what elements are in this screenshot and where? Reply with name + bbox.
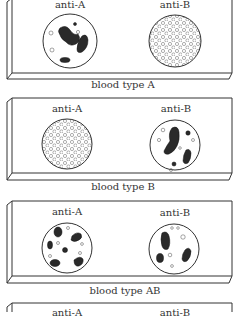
slide-blood-type-ab	[7, 201, 232, 283]
well-anti-b	[149, 224, 199, 274]
caption-blood-type-ab: blood type AB	[90, 286, 161, 296]
well-anti-a	[42, 119, 92, 169]
well-label-anti-b: anti-B	[160, 308, 190, 318]
caption-blood-type-b: blood type B	[91, 182, 155, 192]
slide-blood-type-a	[7, 0, 232, 79]
well-label-anti-b: anti-B	[160, 0, 190, 10]
slide-blood-type-b	[7, 98, 232, 180]
well-label-anti-a: anti-A	[52, 104, 82, 114]
well-label-anti-a: anti-A	[52, 308, 82, 318]
well-label-anti-b: anti-B	[161, 104, 191, 114]
well-label-anti-a: anti-A	[52, 207, 82, 217]
caption-blood-type-a: blood type A	[91, 80, 155, 90]
well-anti-b	[149, 15, 201, 67]
well-label-anti-b: anti-B	[160, 208, 190, 218]
slide-partial	[7, 303, 232, 312]
well-label-anti-a: anti-A	[55, 0, 85, 10]
